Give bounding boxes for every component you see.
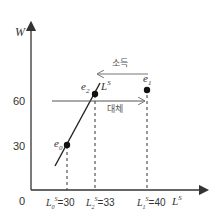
- y-tick-30: 30: [13, 140, 25, 152]
- point-e1: [144, 87, 150, 93]
- x-mark-labels: L0S=30 L2S=33 L1S=40: [45, 196, 166, 210]
- substitution-effect-label: 대체: [107, 104, 123, 114]
- point-e2-label: e2: [81, 80, 90, 95]
- point-e1-label: e1: [143, 72, 151, 87]
- point-e0-label: e0: [54, 137, 63, 152]
- origin-label: 0: [19, 195, 25, 207]
- y-tick-60: 60: [13, 95, 25, 107]
- point-e0: [64, 142, 70, 148]
- labor-supply-diagram: W 60 30 0 LS LS 소득 대체 e0 e2 e1 L0S=30 L2…: [0, 0, 220, 224]
- x-mark-L0: L0S=30: [45, 196, 75, 210]
- x-mark-L2: L2S=33: [85, 196, 115, 210]
- income-effect-label: 소득: [112, 58, 128, 68]
- x-mark-L1: L1S=40: [136, 196, 166, 210]
- supply-curve-label: LS: [100, 79, 111, 92]
- point-e2: [92, 91, 98, 97]
- y-axis-label: W: [15, 25, 26, 39]
- x-axis-label: LS: [171, 194, 182, 207]
